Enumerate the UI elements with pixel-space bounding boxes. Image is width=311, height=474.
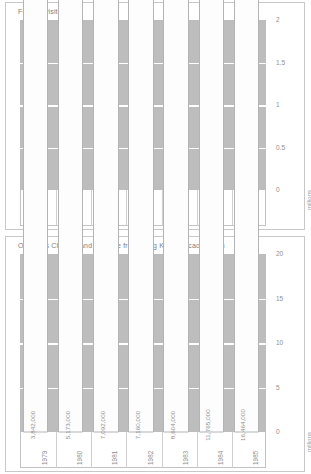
x-axis-separator: [232, 432, 233, 468]
tick-mark: [267, 343, 273, 345]
tick-mark: [267, 147, 273, 149]
x-axis-label: 1984: [217, 451, 224, 465]
bar[interactable]: 7,160,000: [128, 0, 153, 432]
x-axis-separator: [91, 190, 92, 226]
bar-front-face: 11,765,000: [199, 0, 224, 432]
bar[interactable]: 5,173,000: [58, 0, 83, 432]
x-axis-separator: [56, 190, 57, 226]
tick-mark: [267, 387, 273, 389]
bar-side-face: [48, 0, 55, 186]
plot-area: 3,842,0005,173,0007,092,0007,160,0008,60…: [20, 254, 266, 432]
y-axis-tick-label: 10: [276, 339, 283, 346]
x-axis-separator: [126, 432, 127, 468]
x-axis-label: 1979: [41, 451, 48, 465]
y-axis: 00.511.52millions: [267, 20, 311, 190]
x-axis-label: 1982: [147, 451, 154, 465]
y-axis: 05101520millions: [267, 254, 311, 432]
bar-series: 3,842,0005,173,0007,092,0007,160,0008,60…: [20, 254, 266, 432]
y-axis-tick-label: 2: [276, 16, 280, 23]
x-axis-separator: [91, 432, 92, 468]
y-axis-unit-label: millions: [306, 432, 311, 452]
x-axis-label: 1983: [182, 451, 189, 465]
chart-page: Foreign visitors 362,000529,000675,00076…: [0, 0, 311, 474]
x-axis-separator: [197, 432, 198, 468]
x-axis: 1979198019811982198319841985: [20, 432, 266, 468]
y-axis-tick-label: 0: [276, 428, 280, 435]
bar-front-face: 8,604,000: [163, 0, 188, 432]
x-axis-separator: [162, 190, 163, 226]
bar-side-face: [259, 0, 266, 186]
tick-mark: [267, 62, 273, 64]
x-axis-separator: [56, 432, 57, 468]
bar[interactable]: 7,092,000: [93, 0, 118, 432]
y-axis-tick-label: 15: [276, 295, 283, 302]
x-axis-label: 1981: [111, 451, 118, 465]
x-axis-separator: [232, 190, 233, 226]
x-axis-label: 1985: [252, 451, 259, 465]
x-axis-separator: [197, 190, 198, 226]
x-axis-separator: [162, 432, 163, 468]
y-axis-tick-label: 1: [276, 101, 280, 108]
y-axis-tick-label: 20: [276, 250, 283, 257]
bar-side-face: [119, 0, 126, 186]
bar-front-face: 3,842,000: [23, 0, 48, 432]
chart-title: Overseas Chinese and Chinese from Hong K…: [18, 242, 225, 249]
y-axis-tick-label: 1.5: [276, 59, 285, 66]
bar[interactable]: 8,604,000: [163, 0, 188, 432]
bar-front-face: 16,464,000: [234, 0, 259, 432]
bar[interactable]: 11,765,000: [199, 0, 224, 432]
bar-front-face: 5,173,000: [58, 0, 83, 432]
chart-panel-foreign-visitors: Foreign visitors 362,000529,000675,00076…: [5, 2, 305, 230]
y-axis-unit-label: millions: [306, 190, 311, 210]
bar[interactable]: 16,464,000: [234, 0, 259, 432]
chart-panel-overseas-chinese: Overseas Chinese and Chinese from Hong K…: [5, 236, 305, 472]
bar-side-face: [83, 0, 90, 186]
y-axis-tick-label: 5: [276, 384, 280, 391]
y-axis-tick-label: 0.5: [276, 144, 285, 151]
bar-side-face: [154, 0, 161, 186]
bar[interactable]: 3,842,000: [23, 0, 48, 432]
bar-side-face: [189, 0, 196, 186]
tick-mark: [267, 298, 273, 300]
x-axis-separator: [126, 190, 127, 226]
tick-mark: [267, 105, 273, 107]
bar-side-face: [224, 0, 231, 186]
bar-front-face: 7,092,000: [93, 0, 118, 432]
y-axis-tick-label: 0: [276, 186, 280, 193]
x-axis-label: 1980: [76, 451, 83, 465]
bar-front-face: 7,160,000: [128, 0, 153, 432]
